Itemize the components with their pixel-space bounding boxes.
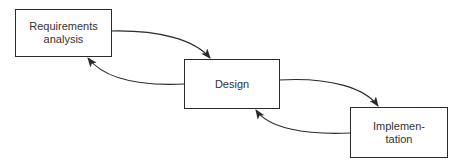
node-label: Implemen- tation [373,120,425,146]
arrow-implementation-to-design [256,110,350,133]
node-label: Design [215,78,249,91]
node-label: Requirements analysis [29,20,97,46]
arrow-design-to-implementation [279,80,378,106]
arrow-design-to-requirements [88,58,184,84]
node-requirements-analysis: Requirements analysis [15,9,112,57]
arrow-requirements-to-design [111,31,210,58]
node-implementation: Implemen- tation [350,107,448,158]
node-design: Design [184,59,280,109]
